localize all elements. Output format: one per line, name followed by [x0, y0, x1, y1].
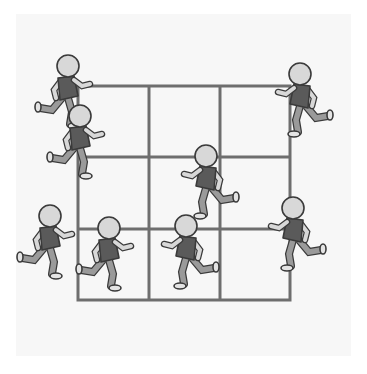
- runners: [17, 55, 333, 291]
- runner-figure: [278, 63, 333, 137]
- runner-figure: [17, 205, 72, 279]
- runner-figure: [47, 105, 102, 179]
- illustration-canvas: [0, 0, 367, 374]
- grid-illustration: [0, 0, 367, 374]
- runner-figure: [164, 215, 219, 289]
- runner-figure: [271, 197, 326, 271]
